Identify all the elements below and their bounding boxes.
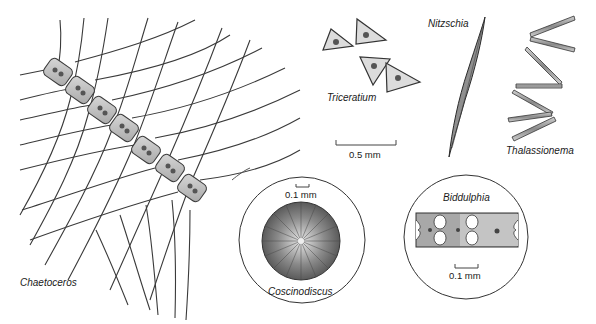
scale-label-main: 0.5 mm: [349, 149, 381, 160]
thalassionema-drawing: [508, 16, 575, 141]
label-triceratium: Triceratium: [327, 92, 376, 103]
nitzschia-drawing: [449, 17, 485, 157]
label-thalassionema: Thalassionema: [506, 145, 574, 156]
scale-label-biddulphia: 0.1 mm: [449, 270, 481, 281]
label-biddulphia: Biddulphia: [443, 192, 490, 203]
illustration-canvas: [0, 0, 596, 324]
scale-label-coscinodiscus: 0.1 mm: [285, 189, 317, 200]
scale-bar-main: [336, 140, 396, 145]
label-coscinodiscus: Coscinodiscus: [268, 286, 332, 297]
label-chaetoceros: Chaetoceros: [20, 277, 77, 288]
diatom-illustration: Chaetoceros Triceratium Nitzschia Thalas…: [0, 0, 596, 324]
triceratium-drawing: [323, 19, 420, 92]
label-nitzschia: Nitzschia: [428, 18, 469, 29]
